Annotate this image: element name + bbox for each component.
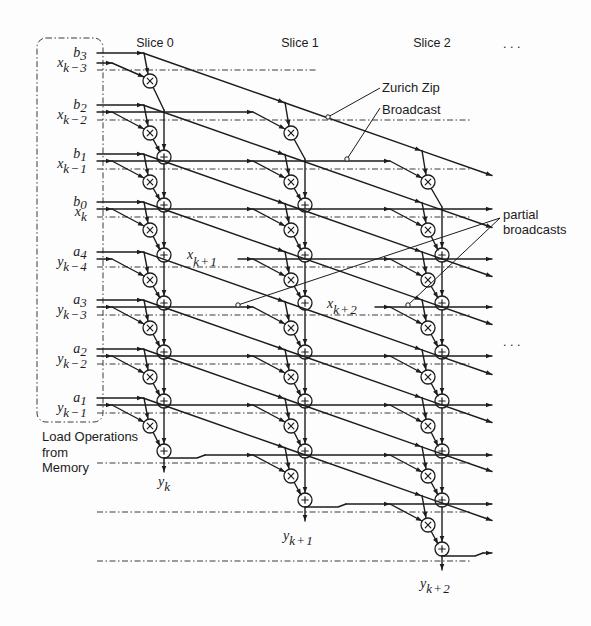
arrowhead-icon	[384, 305, 390, 310]
adder-node	[435, 296, 449, 310]
arrowhead-icon	[415, 247, 421, 251]
arrowhead-icon	[138, 368, 144, 373]
arrowhead-icon	[440, 536, 445, 542]
arrowhead-icon	[162, 144, 167, 150]
input-index: k−2	[63, 356, 88, 371]
arrowhead-icon	[486, 551, 492, 556]
arrowhead-icon	[440, 487, 445, 493]
multiplier-node	[143, 419, 157, 433]
arrowhead-icon	[137, 103, 143, 108]
arrowhead-icon	[303, 242, 308, 248]
arrowhead-icon	[486, 171, 492, 175]
arrowhead-icon	[303, 438, 308, 444]
ellipsis-right: . . .	[503, 335, 520, 349]
arrowhead-icon	[440, 242, 445, 248]
input-index: k	[81, 209, 88, 224]
zurich-zip-line	[421, 300, 492, 325]
arrowhead-icon	[303, 487, 308, 493]
multiplier-node	[143, 223, 157, 237]
arrowhead-icon	[286, 120, 291, 126]
arrowhead-icon	[247, 305, 253, 310]
ellipsis-top: . . .	[503, 37, 520, 51]
coefficient-symbol: a	[73, 341, 80, 356]
output-label: yk+1	[281, 528, 314, 548]
arrowhead-icon	[138, 319, 144, 324]
multiplier-node	[284, 419, 298, 433]
arrowhead-icon	[486, 305, 492, 310]
arrowhead-icon	[162, 466, 167, 472]
multiplier-node	[143, 175, 157, 189]
arrowhead-icon	[486, 467, 492, 471]
adder-node	[298, 493, 312, 507]
arrowhead-icon	[247, 159, 253, 164]
arrowhead-icon	[486, 320, 492, 324]
arrowhead-icon	[278, 98, 284, 102]
partial-broadcasts-annotation-line1: partial	[503, 207, 539, 222]
arrowhead-icon	[247, 257, 253, 262]
arrowhead-icon	[247, 403, 253, 408]
load-operations-caption-line1: Load Operations	[42, 429, 139, 444]
arrowhead-icon	[384, 502, 390, 507]
slice-0-label: Slice 0	[136, 36, 174, 50]
arrowhead-icon	[137, 347, 143, 352]
arrowhead-icon	[303, 388, 308, 394]
arrowhead-icon	[486, 207, 492, 212]
arrowhead-icon	[486, 257, 492, 262]
arrowhead-icon	[486, 453, 492, 458]
zurich-zip-annotation: Zurich Zip	[382, 80, 440, 95]
coefficient-symbol: a	[73, 390, 80, 405]
arrowhead-icon	[278, 394, 284, 398]
arrowhead-icon	[137, 51, 143, 56]
broadcast-annotation: Broadcast	[382, 102, 441, 117]
output-index: k+2	[426, 581, 451, 596]
annotation-pointer-line	[238, 218, 500, 305]
arrowhead-icon	[279, 124, 285, 129]
zurich-zip-line	[421, 447, 492, 472]
arrowhead-icon	[106, 110, 112, 115]
zurich-zip-line	[421, 252, 492, 277]
adder-node	[298, 248, 312, 262]
partial-broadcasts-annotation-line2: broadcasts	[503, 222, 567, 237]
coefficient-symbol: b	[73, 97, 80, 112]
arrowhead-icon	[279, 173, 285, 178]
multiplier-node	[421, 223, 435, 237]
arrowhead-icon	[440, 290, 445, 296]
input-index: k−2	[63, 112, 88, 127]
arrowhead-icon	[106, 61, 112, 66]
arrowhead-icon	[416, 516, 422, 521]
partial-input-label: xk+2	[326, 296, 358, 317]
arrowhead-icon	[162, 242, 167, 248]
arrowhead-icon	[415, 345, 421, 349]
arrowhead-icon	[137, 152, 143, 157]
adder-node	[435, 493, 449, 507]
adder-node	[298, 296, 312, 310]
arrowhead-icon	[384, 207, 390, 212]
arrowhead-icon	[415, 146, 421, 150]
arrowhead-icon	[384, 159, 390, 164]
annotation-pointer-line	[347, 108, 380, 159]
arrowhead-icon	[384, 354, 390, 359]
arrowhead-icon	[303, 290, 308, 296]
arrowhead-icon	[279, 417, 285, 422]
multiplier-node	[421, 321, 435, 335]
load-operations-caption-line2: from	[42, 445, 68, 460]
arrowhead-icon	[415, 393, 421, 397]
arrowhead-icon	[138, 271, 144, 276]
arrowhead-icon	[486, 516, 492, 520]
adder-node	[435, 444, 449, 458]
multiplier-node	[143, 273, 157, 287]
output-label: yk+2	[418, 576, 451, 596]
arrowhead-icon	[162, 339, 167, 345]
arrowhead-icon	[247, 110, 253, 115]
multiplier-node	[284, 321, 298, 335]
arrowhead-icon	[303, 339, 308, 345]
output-index: k+1	[289, 533, 314, 548]
input-index: k−1	[63, 405, 88, 420]
adder-node	[435, 394, 449, 408]
zurich-zip-line	[421, 398, 492, 423]
arrowhead-icon	[415, 198, 421, 202]
arrowhead-icon	[486, 502, 492, 507]
annotation-pointer-dot	[236, 303, 240, 307]
arrowhead-icon	[137, 396, 143, 401]
input-index: k−3	[63, 60, 88, 75]
